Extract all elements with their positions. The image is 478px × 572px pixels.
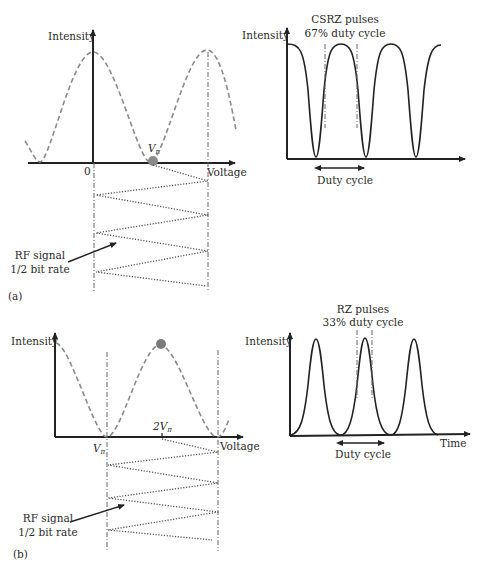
transfer-curve (25, 50, 236, 162)
panel-b: Intensity Voltage Vπ 2Vπ RF signal 1/2 b… (11, 303, 470, 560)
panel-a: Intensity Voltage 0 Vπ RF signal 1/2 bit… (8, 13, 465, 302)
y-axis-label: Intensity (11, 335, 58, 347)
duty-cycle-label: Duty cycle (317, 174, 373, 186)
panel-a-transfer-plot: Intensity Voltage 0 Vπ RF signal 1/2 bit… (10, 30, 247, 292)
plot-title-line2: 33% duty cycle (323, 316, 404, 328)
plot-title-line2: 67% duty cycle (305, 27, 386, 39)
transfer-curve (56, 343, 229, 437)
two-vpi-label: 2Vπ (152, 420, 172, 434)
y-axis-label: Intensity (48, 30, 95, 42)
x-axis-label: Voltage (219, 440, 260, 452)
panel-b-tag: (b) (13, 548, 28, 560)
rf-arrow (68, 243, 116, 262)
bias-point-dot (148, 156, 158, 166)
bias-point-dot (156, 339, 166, 349)
rf-label-line1: RF signal (15, 249, 66, 261)
y-axis-label: Intensity (242, 29, 289, 41)
rf-signal (108, 439, 218, 540)
y-axis-label: Intensity (245, 335, 292, 347)
csrz-pulse-train (287, 44, 441, 157)
rf-label-line2: 1/2 bit rate (18, 526, 78, 538)
x-axis-label: Voltage (206, 166, 247, 178)
panel-b-transfer-plot: Intensity Voltage Vπ 2Vπ RF signal 1/2 b… (11, 333, 260, 551)
plot-title-line1: RZ pulses (337, 303, 389, 315)
figure: Intensity Voltage 0 Vπ RF signal 1/2 bit… (0, 0, 478, 572)
origin-label: 0 (84, 165, 91, 177)
rf-signal (96, 165, 208, 286)
panel-a-tag: (a) (8, 290, 22, 302)
rf-label-line1: RF signal (23, 512, 74, 524)
rz-pulse-train (291, 338, 438, 435)
vpi-label: Vπ (93, 442, 106, 456)
rf-arrow (70, 505, 124, 522)
rf-label-line2: 1/2 bit rate (10, 263, 70, 275)
vpi-label: Vπ (148, 142, 161, 156)
panel-a-output-plot: Intensity CSRZ pulses 67% duty cycle Dut… (242, 13, 465, 186)
plot-title-line1: CSRZ pulses (311, 13, 379, 25)
x-axis (290, 434, 470, 436)
x-axis-label: Time (440, 437, 467, 449)
panel-b-output-plot: Intensity Time RZ pulses 33% duty cycle … (245, 303, 470, 460)
duty-cycle-label: Duty cycle (335, 448, 391, 460)
